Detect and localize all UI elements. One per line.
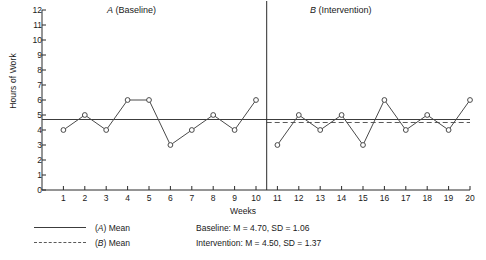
data-point-marker	[125, 98, 130, 103]
data-point-marker	[382, 98, 387, 103]
data-point-marker	[296, 113, 301, 118]
data-point-marker	[168, 143, 173, 148]
x-axis-label: Weeks	[0, 206, 486, 216]
data-point-marker	[211, 113, 216, 118]
data-point-marker	[318, 128, 323, 133]
solid-line-swatch-icon	[34, 227, 86, 228]
legend-a-suffix: ) Mean	[104, 223, 130, 233]
data-point-marker	[61, 128, 66, 133]
series-line-intervention	[277, 100, 470, 145]
data-point-marker	[82, 113, 87, 118]
data-point-marker	[232, 128, 237, 133]
data-point-marker	[361, 143, 366, 148]
chart-figure: Hours of Work A (Baseline) B (Interventi…	[0, 0, 486, 260]
data-point-marker	[425, 113, 430, 118]
chart-legend: (A) Mean (B) Mean Baseline: M = 4.70, SD…	[0, 218, 486, 260]
dashed-line-swatch-icon	[34, 242, 86, 243]
data-point-marker	[147, 98, 152, 103]
legend-entry-mean-a: (A) Mean	[34, 221, 130, 235]
legend-entry-mean-b: (B) Mean	[34, 236, 130, 250]
data-point-marker	[339, 113, 344, 118]
data-point-marker	[104, 128, 109, 133]
data-point-marker	[403, 128, 408, 133]
data-point-marker	[254, 98, 259, 103]
legend-label-mean-a: (A) Mean	[95, 223, 130, 233]
legend-b-suffix: ) Mean	[104, 238, 130, 248]
data-point-marker	[446, 128, 451, 133]
data-point-marker	[468, 98, 473, 103]
series-line-baseline	[63, 100, 256, 145]
legend-label-mean-b: (B) Mean	[95, 238, 130, 248]
stats-baseline: Baseline: M = 4.70, SD = 1.06	[196, 221, 309, 235]
data-point-marker	[275, 143, 280, 148]
data-point-marker	[189, 128, 194, 133]
stats-intervention: Intervention: M = 4.50, SD = 1.37	[196, 236, 321, 250]
